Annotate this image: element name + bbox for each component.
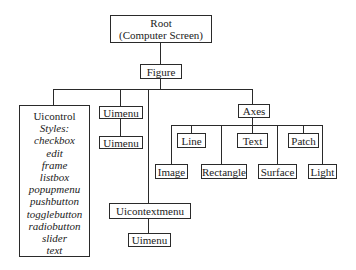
edge-root-figure bbox=[160, 42, 161, 64]
edge-axes-surface bbox=[277, 125, 278, 164]
style-item: text bbox=[47, 244, 63, 256]
edge-uicontextmenu-uimenu bbox=[148, 218, 149, 233]
node-uimenu-2: Uimenu bbox=[99, 136, 143, 149]
style-item: togglebutton bbox=[27, 208, 83, 220]
edge-figure-bus bbox=[160, 78, 161, 89]
node-uimenu-3: Uimenu bbox=[128, 233, 171, 247]
node-image: Image bbox=[155, 164, 188, 179]
style-item: frame bbox=[42, 159, 68, 171]
style-item: pushbutton bbox=[30, 195, 79, 207]
uicontextmenu-label: Uicontextmenu bbox=[116, 205, 184, 217]
line-label: Line bbox=[181, 135, 201, 147]
node-uicontrol: Uicontrol Styles: checkbox edit frame li… bbox=[19, 105, 90, 257]
node-uimenu-1: Uimenu bbox=[99, 106, 143, 119]
text-label: Text bbox=[243, 135, 262, 147]
edge-axes-image bbox=[171, 125, 172, 164]
figure-children-bus bbox=[53, 89, 253, 90]
node-axes: Axes bbox=[238, 104, 270, 118]
light-label: Light bbox=[311, 166, 335, 178]
axes-children-bus bbox=[171, 125, 323, 126]
node-patch: Patch bbox=[288, 133, 319, 148]
style-item: popupmenu bbox=[29, 183, 80, 195]
uimenu-label: Uimenu bbox=[103, 107, 138, 119]
uimenu-label: Uimenu bbox=[103, 137, 138, 149]
node-light: Light bbox=[308, 164, 337, 179]
edge-figure-uicontextmenu bbox=[148, 89, 149, 203]
style-item: checkbox bbox=[34, 134, 75, 146]
style-item: radiobutton bbox=[29, 220, 81, 232]
style-item: edit bbox=[46, 147, 63, 159]
edge-axes-patch bbox=[303, 125, 304, 133]
node-line: Line bbox=[177, 133, 206, 148]
uimenu-label: Uimenu bbox=[132, 234, 167, 246]
image-label: Image bbox=[158, 166, 185, 178]
root-label: Root bbox=[150, 17, 171, 29]
node-uicontextmenu: Uicontextmenu bbox=[109, 203, 191, 219]
edge-figure-axes bbox=[252, 89, 253, 104]
node-text: Text bbox=[237, 133, 268, 148]
figure-label: Figure bbox=[147, 66, 176, 78]
edge-axes-text bbox=[252, 125, 253, 133]
node-root: Root (Computer Screen) bbox=[110, 15, 212, 43]
uicontrol-styles-label: Styles: bbox=[40, 122, 69, 134]
rectangle-label: Rectangle bbox=[202, 166, 246, 178]
node-figure: Figure bbox=[140, 64, 182, 79]
patch-label: Patch bbox=[291, 135, 315, 147]
axes-label: Axes bbox=[243, 105, 266, 117]
edge-figure-uimenu bbox=[120, 89, 121, 106]
style-item: slider bbox=[42, 232, 67, 244]
edge-axes-light bbox=[322, 125, 323, 164]
edge-figure-uicontrol bbox=[53, 89, 54, 105]
uicontrol-label: Uicontrol bbox=[33, 110, 75, 122]
node-rectangle: Rectangle bbox=[201, 164, 247, 179]
style-item: listbox bbox=[40, 171, 69, 183]
surface-label: Surface bbox=[261, 166, 295, 178]
node-surface: Surface bbox=[258, 164, 297, 179]
edge-axes-bus bbox=[252, 117, 253, 125]
edge-uimenu-uimenu bbox=[120, 118, 121, 136]
edge-axes-line bbox=[191, 125, 192, 133]
root-sublabel: (Computer Screen) bbox=[119, 29, 203, 41]
edge-axes-rectangle bbox=[221, 125, 222, 164]
